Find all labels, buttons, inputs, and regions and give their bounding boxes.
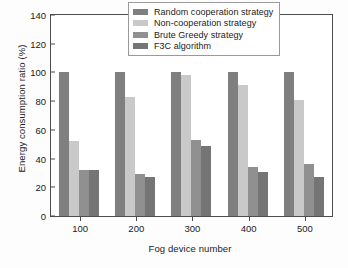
y-axis-tick-mark (51, 216, 55, 217)
bar (284, 72, 294, 216)
x-axis-tick-label: 500 (297, 223, 313, 234)
y-axis-tick-label: 80 (35, 96, 51, 107)
y-axis-tick-label: 40 (35, 153, 51, 164)
x-axis-tick-mark (192, 216, 193, 221)
y-axis-tick-mark (51, 43, 55, 44)
y-axis-tick-label: 120 (30, 38, 51, 49)
y-axis-tick-mark (51, 72, 55, 73)
bar-group (284, 15, 324, 216)
legend-item: Brute Greedy strategy (133, 29, 273, 41)
legend-item: Random cooperation strategy (133, 6, 273, 18)
bar (228, 72, 238, 216)
legend-color-swatch (133, 20, 148, 26)
bar (181, 75, 191, 216)
bar (294, 100, 304, 216)
x-axis-tick-label: 100 (72, 223, 88, 234)
x-axis-tick-mark (136, 216, 137, 221)
legend-item-label: Non-cooperation strategy (154, 18, 256, 28)
x-axis-tick-mark (249, 216, 250, 221)
bar (115, 72, 125, 216)
legend-item-label: F3C algorithm (154, 41, 211, 51)
bar (238, 85, 248, 216)
bar (125, 97, 135, 216)
x-axis-tick-label: 300 (185, 223, 201, 234)
x-axis-tick-mark (305, 216, 306, 221)
bar (79, 170, 89, 216)
bar (191, 140, 201, 216)
bar (89, 170, 99, 216)
bar (248, 167, 258, 216)
legend-item-label: Brute Greedy strategy (154, 30, 243, 40)
x-axis-label: Fog device number (40, 243, 340, 254)
bar (314, 177, 324, 216)
bar (69, 141, 79, 216)
legend-item: Non-cooperation strategy (133, 18, 273, 30)
chart-legend: Random cooperation strategyNon-cooperati… (128, 2, 280, 56)
bar-group (59, 15, 99, 216)
legend-item-label: Random cooperation strategy (154, 7, 273, 17)
bar-chart-figure: Energy consumption ratio (%) 02040608010… (0, 0, 348, 268)
y-axis-label: Energy consumption ratio (%) (16, 19, 27, 199)
y-axis-tick-mark (51, 129, 55, 130)
bar (171, 72, 181, 216)
legend-item: F3C algorithm (133, 41, 273, 53)
x-axis-tick-mark (80, 216, 81, 221)
y-axis-tick-label: 140 (30, 10, 51, 21)
bar (201, 146, 211, 216)
y-axis-tick-label: 0 (41, 211, 51, 222)
y-axis-tick-label: 20 (35, 182, 51, 193)
bar (145, 177, 155, 216)
y-axis-tick-label: 100 (30, 67, 51, 78)
y-axis-tick-mark (51, 158, 55, 159)
bar (135, 174, 145, 216)
x-axis-tick-label: 200 (128, 223, 144, 234)
y-axis-tick-mark (51, 187, 55, 188)
y-axis-tick-mark (51, 101, 55, 102)
bar (258, 172, 268, 216)
x-axis-tick-label: 400 (241, 223, 257, 234)
bar (59, 72, 69, 216)
legend-color-swatch (133, 32, 148, 38)
y-axis-tick-label: 60 (35, 124, 51, 135)
y-axis-tick-mark (51, 15, 55, 16)
legend-color-swatch (133, 9, 148, 15)
legend-color-swatch (133, 43, 148, 49)
bar (304, 164, 314, 216)
